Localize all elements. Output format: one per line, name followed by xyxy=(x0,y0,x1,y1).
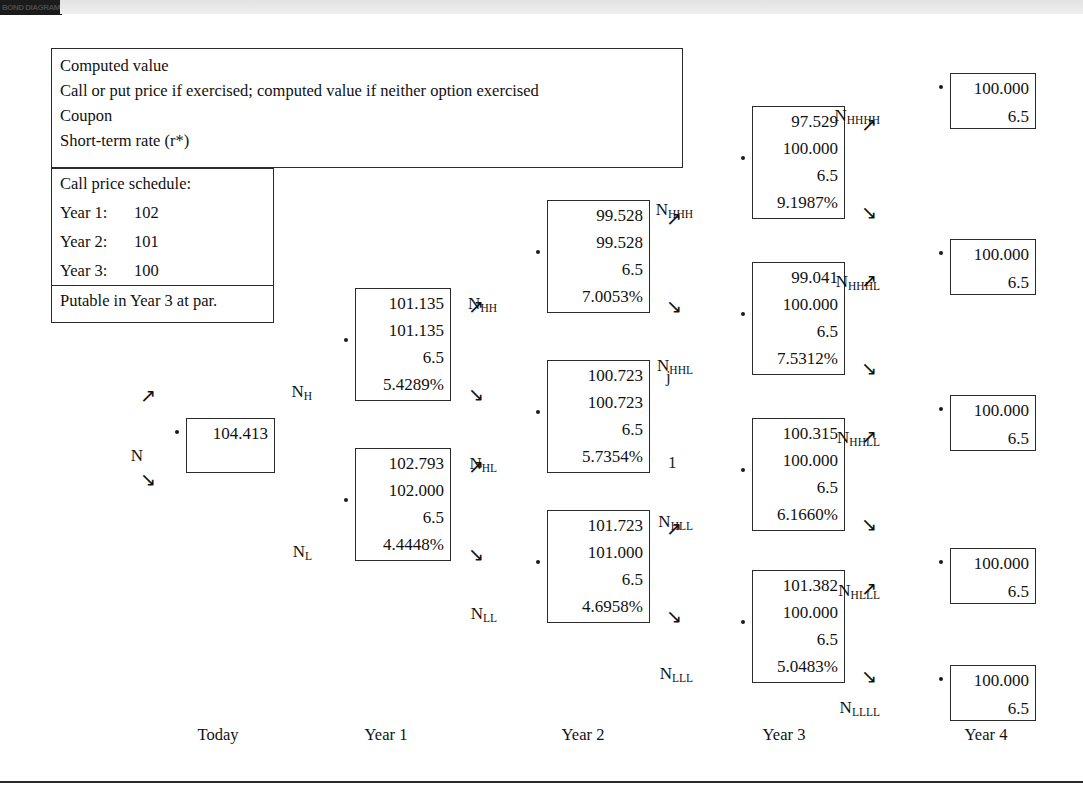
node-computed: 100.000 xyxy=(955,241,1029,269)
node-label-NLLLL: NLLLL xyxy=(820,698,880,718)
tree-node-NHHHH: 100.0006.5 xyxy=(950,73,1036,129)
node-rate: 7.5312% xyxy=(757,345,838,372)
node-exercised: 99.528 xyxy=(552,229,643,256)
node-label-subscript: HHHL xyxy=(848,280,880,292)
branch-arrow-down: ↘ xyxy=(140,470,156,489)
header-band xyxy=(60,0,1083,14)
timeline-label-0: Today xyxy=(158,725,278,745)
node-computed: 99.528 xyxy=(552,202,643,229)
node-label-NH: NH xyxy=(252,382,312,402)
schedule-row: Year 3:100 xyxy=(52,256,273,285)
node-exercised: 100.000 xyxy=(757,291,838,318)
node-label-base: N xyxy=(131,446,143,465)
node-rate: 5.0483% xyxy=(757,653,838,680)
node-point-dot xyxy=(175,430,179,434)
node-coupon: 6.5 xyxy=(552,416,643,443)
tree-node-NLLLL: 100.0006.5 xyxy=(950,665,1036,721)
node-rate: 6.1660% xyxy=(757,501,838,528)
branch-arrow-down: ↘ xyxy=(666,607,682,626)
node-point-dot xyxy=(344,498,348,502)
node-rate: 7.0053% xyxy=(552,283,643,310)
node-label-base: N xyxy=(660,664,672,683)
node-label-NHHLL: NHHLL xyxy=(820,428,880,448)
branch-arrow-down: ↘ xyxy=(468,545,484,564)
branch-arrow-down: ↘ xyxy=(666,297,682,316)
branch-arrow-up: ↗ xyxy=(140,386,156,405)
node-coupon: 6.5 xyxy=(955,425,1029,453)
node-label-subscript: HHLL xyxy=(849,436,880,448)
timeline-label-1: Year 1 xyxy=(326,725,446,745)
node-label-base: N xyxy=(838,581,850,600)
node-label-subscript: HH xyxy=(480,302,497,314)
node-computed: 104.413 xyxy=(191,420,268,448)
node-label-base: N xyxy=(291,382,303,401)
node-coupon: 6.5 xyxy=(955,103,1029,131)
legend-line: Coupon xyxy=(60,103,674,128)
node-computed: 100.000 xyxy=(955,550,1029,578)
legend-box: Computed valueCall or put price if exerc… xyxy=(51,48,683,168)
node-computed: 101.723 xyxy=(552,512,643,539)
node-coupon: 6.5 xyxy=(955,578,1029,606)
schedule-title: Call price schedule: xyxy=(52,169,273,198)
node-coupon: 6.5 xyxy=(552,256,643,283)
node-point-dot xyxy=(939,560,943,564)
node-coupon: 6.5 xyxy=(757,474,838,501)
node-label-base: N xyxy=(469,454,481,473)
branch-arrow-down: ↘ xyxy=(861,667,877,686)
timeline-label-2: Year 2 xyxy=(523,725,643,745)
node-label-NLL: NLL xyxy=(437,604,497,624)
legend-line: Call or put price if exercised; computed… xyxy=(60,78,674,103)
schedule-row: Year 2:101 xyxy=(52,227,273,256)
node-computed: 100.723 xyxy=(552,362,643,389)
tree-node-NHHLL: 100.0006.5 xyxy=(950,395,1036,451)
tree-node-NHL: 100.723100.7236.55.7354% xyxy=(547,360,650,473)
node-coupon: 6.5 xyxy=(955,695,1029,723)
node-point-dot xyxy=(536,410,540,414)
node-label-subscript: LLL xyxy=(672,672,693,684)
node-coupon: 6.5 xyxy=(757,162,838,189)
node-label-subscript: HHHH xyxy=(847,114,880,126)
header-tab-label: BOND DIAGRAM xyxy=(0,0,62,15)
node-label-base: N xyxy=(471,604,483,623)
node-exercised: 102.000 xyxy=(360,477,444,504)
node-point-dot xyxy=(536,250,540,254)
node-label-subscript: HL xyxy=(482,462,497,474)
schedule-footer: Putable in Year 3 at par. xyxy=(52,285,273,315)
node-point-dot xyxy=(939,251,943,255)
figure-canvas: BOND DIAGRAM Computed valueCall or put p… xyxy=(0,0,1083,796)
node-computed: 101.135 xyxy=(360,290,444,317)
node-label-base: N xyxy=(657,356,669,375)
node-point-dot xyxy=(536,560,540,564)
node-exercised: 100.000 xyxy=(757,599,838,626)
node-label-NHHHH: NHHHH xyxy=(820,106,880,126)
node-point-dot xyxy=(939,407,943,411)
branch-arrow-down: ↘ xyxy=(861,515,877,534)
node-computed: 102.793 xyxy=(360,450,444,477)
schedule-row-label: Year 1: xyxy=(60,200,134,225)
node-computed: 100.000 xyxy=(955,397,1029,425)
branch-arrow-down: ↘ xyxy=(468,385,484,404)
node-label-NL: NL xyxy=(252,542,312,562)
legend-line: Computed value xyxy=(60,53,674,78)
legend-line: Short-term rate (r*) xyxy=(60,128,674,153)
node-label-subscript: LL xyxy=(483,612,497,624)
bottom-rule xyxy=(0,781,1083,783)
node-exercised: 101.135 xyxy=(360,317,444,344)
branch-arrow-down: 1 xyxy=(668,454,677,471)
node-label-NHH: NHH xyxy=(437,294,497,314)
header-tab: BOND DIAGRAM xyxy=(0,0,62,15)
node-computed: 100.000 xyxy=(955,75,1029,103)
node-label-base: N xyxy=(468,294,480,313)
node-point-dot xyxy=(741,468,745,472)
node-point-dot xyxy=(344,338,348,342)
node-rate: 5.7354% xyxy=(552,443,643,470)
node-label-subscript: HHH xyxy=(668,208,693,220)
node-label-NHLL: NHLL xyxy=(633,512,693,532)
node-label-base: N xyxy=(834,106,846,125)
node-label-N: N xyxy=(83,446,143,466)
node-label-base: N xyxy=(293,542,305,561)
node-rate: 9.1987% xyxy=(757,189,838,216)
branch-arrow-down: ↘ xyxy=(861,203,877,222)
node-point-dot xyxy=(939,677,943,681)
node-label-base: N xyxy=(837,428,849,447)
